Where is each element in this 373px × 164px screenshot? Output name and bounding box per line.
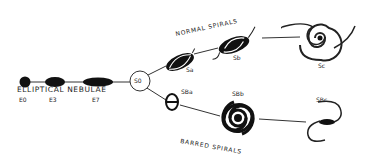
heading-normal-spirals: NORMAL SPIRALS xyxy=(175,17,239,37)
label-sba: SBa xyxy=(181,88,193,95)
galaxy-sc-icon xyxy=(282,24,355,61)
galaxy-sbc-icon xyxy=(308,101,341,141)
label-sb: Sb xyxy=(233,54,241,61)
label-e7: E7 xyxy=(92,96,100,103)
label-e0: E0 xyxy=(19,96,27,103)
galaxy-sbb-icon xyxy=(223,102,253,134)
tuning-fork-diagram: ELLIPTICAL NEBULAE NORMAL SPIRALS BARRED… xyxy=(0,0,373,164)
label-e3: E3 xyxy=(49,96,57,103)
label-s0: S0 xyxy=(134,77,142,84)
label-sbb: SBb xyxy=(232,90,244,97)
connector-lines xyxy=(25,37,306,122)
galaxy-sa-icon xyxy=(163,48,200,75)
heading-barred-spirals: BARRED SPIRALS xyxy=(180,137,243,155)
heading-elliptical: ELLIPTICAL NEBULAE xyxy=(17,85,107,94)
galaxy-sba-icon xyxy=(166,94,178,110)
label-sa: Sa xyxy=(186,66,194,73)
label-sc: Sc xyxy=(318,62,325,69)
label-sbc: SBc xyxy=(316,96,327,103)
